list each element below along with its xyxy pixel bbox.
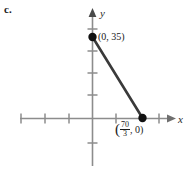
x-axis-arrowhead	[167, 115, 176, 123]
figure-container: c. y x (0, 35) (	[0, 0, 191, 171]
x-intercept-label-tail: , 0)	[130, 124, 143, 135]
x-axis-label: x	[177, 113, 183, 125]
y-axis-arrowhead	[89, 8, 97, 17]
x-intercept-fraction: 70 3	[120, 121, 130, 139]
fraction-numerator: 70	[120, 121, 130, 129]
y-intercept-label: (0, 35)	[98, 31, 125, 42]
fraction-denominator: 3	[122, 130, 128, 138]
y-axis-label: y	[99, 7, 105, 19]
line-segment	[93, 37, 143, 118]
coordinate-plane: y x	[0, 0, 191, 171]
point-y-intercept	[88, 33, 96, 41]
x-intercept-label: ( 70 3 , 0)	[115, 121, 143, 139]
